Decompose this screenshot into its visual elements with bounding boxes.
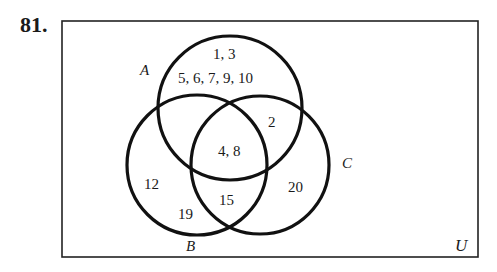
region-b-and-c: 15 [219,192,234,209]
universe-label: U [455,236,467,256]
set-label-a: A [140,62,149,79]
universe-rectangle [62,21,478,257]
region-c-only: 20 [288,179,303,196]
region-a-only-bottom: 5, 6, 7, 9, 10 [178,70,253,87]
venn-diagram [0,0,497,272]
region-b-only-2: 19 [178,206,193,223]
region-b-only-1: 12 [144,176,159,193]
region-a-only-top: 1, 3 [213,46,236,63]
set-label-b: B [186,238,195,255]
circle-b [127,95,267,235]
region-a-b-c: 4, 8 [218,143,241,160]
circle-c [191,96,329,234]
set-label-c: C [342,155,352,172]
region-a-and-c: 2 [268,114,276,131]
